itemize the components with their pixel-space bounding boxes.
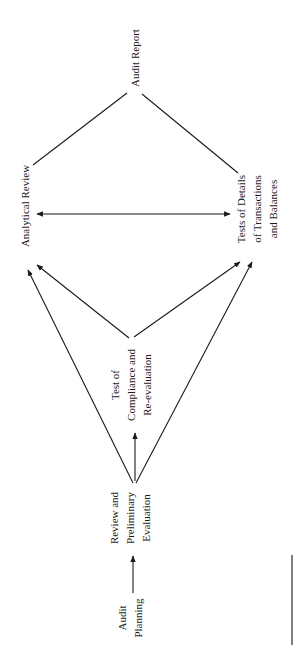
svg-text:Tests of Details: Tests of Details [235, 175, 247, 243]
audit-process-diagram: Audit Report Analytical Review Tests of … [0, 0, 298, 652]
edge-compliance-to-analytical [37, 265, 129, 338]
svg-text:Evaluation: Evaluation [140, 494, 152, 542]
edge-compliance-to-details [134, 262, 240, 337]
node-tests-of-details: Tests of Details of Transactions and Bal… [235, 175, 279, 243]
svg-text:and Balances: and Balances [267, 180, 279, 238]
edge-details-to-report [142, 94, 238, 173]
node-review-preliminary-evaluation: Review and Preliminary Evaluation [108, 491, 152, 544]
svg-text:of Transactions: of Transactions [251, 175, 263, 243]
edge-analytical-to-report [33, 93, 127, 165]
svg-text:Planning: Planning [132, 598, 144, 638]
svg-text:Audit: Audit [116, 605, 128, 630]
node-audit-planning: Audit Planning [116, 598, 144, 638]
svg-text:Re-evaluation: Re-evaluation [141, 354, 153, 416]
node-test-of-compliance: Test of Compliance and Re-evaluation [109, 349, 153, 421]
svg-text:Audit Report: Audit Report [129, 29, 141, 87]
svg-text:Preliminary: Preliminary [124, 492, 136, 544]
svg-text:Analytical Review: Analytical Review [19, 165, 31, 247]
svg-text:Test of: Test of [109, 370, 121, 400]
svg-text:Review and: Review and [108, 491, 120, 544]
node-audit-report: Audit Report [129, 29, 141, 87]
svg-text:Compliance and: Compliance and [125, 349, 137, 421]
node-analytical-review: Analytical Review [19, 165, 31, 247]
